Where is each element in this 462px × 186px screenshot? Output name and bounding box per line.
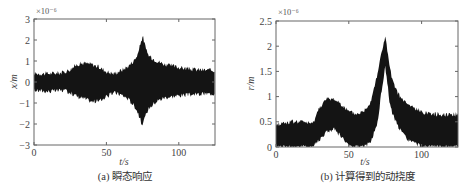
chart-a-ylabel: x/m (8, 67, 19, 97)
chart-b-ylabel: r/m (245, 69, 256, 99)
y-tick-label: 2 (267, 41, 272, 52)
chart-b-caption: (b) 计算得到的动挠度 (313, 168, 423, 183)
x-tick-label: 100 (171, 147, 186, 158)
y-tick-label: 0 (267, 142, 272, 153)
y-tick-label: 1 (267, 91, 272, 102)
y-tick-label: 2.5 (260, 16, 273, 27)
chart-a-xlabel: t/s (104, 156, 144, 167)
x-tick-label: 0 (32, 147, 37, 158)
x-tick-label: 0 (274, 149, 279, 160)
x-tick-label: 100 (414, 149, 429, 160)
y-tick-label: −3 (19, 140, 30, 151)
y-tick-label: 2 (25, 35, 30, 46)
signal-band (276, 37, 458, 147)
chart-panel-a: −3−2−10123050100 ×10⁻⁶ x/m t/s (a) 瞬态响应 (0, 0, 231, 186)
chart-a-multiplier: ×10⁻⁶ (36, 6, 57, 16)
chart-b-xlabel: t/s (345, 156, 385, 167)
y-tick-label: 1.5 (260, 66, 273, 77)
y-tick-label: 3 (25, 14, 30, 25)
chart-a-caption: (a) 瞬态响应 (80, 168, 170, 183)
y-tick-label: 0 (25, 77, 30, 88)
chart-a-ylabel-text: x/m (8, 74, 19, 88)
y-tick-label: 1 (25, 56, 30, 67)
chart-b-multiplier: ×10⁻⁶ (278, 7, 299, 17)
y-tick-label: −1 (19, 98, 30, 109)
chart-b-ylabel-text: r/m (245, 77, 256, 91)
chart-panel-b: 00.511.522.5050100 ×10⁻⁶ r/m t/s (b) 计算得… (231, 0, 462, 186)
y-tick-label: 0.5 (260, 116, 273, 127)
signal-band (34, 36, 215, 125)
y-tick-label: −2 (19, 119, 30, 130)
